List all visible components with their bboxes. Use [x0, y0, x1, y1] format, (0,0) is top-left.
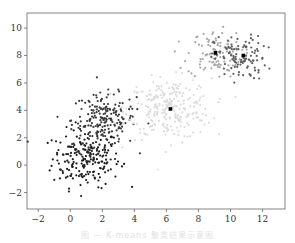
svg-text:2: 2	[99, 214, 105, 224]
figure-caption: 图 — K-means 聚类结果示意图	[0, 229, 295, 240]
svg-text:−2: −2	[9, 188, 22, 198]
svg-text:4: 4	[16, 105, 22, 115]
svg-text:−2: −2	[32, 214, 45, 224]
svg-text:2: 2	[16, 133, 22, 143]
svg-text:6: 6	[16, 78, 22, 88]
svg-text:8: 8	[196, 214, 202, 224]
svg-text:0: 0	[16, 160, 22, 170]
svg-text:8: 8	[16, 50, 22, 60]
data-points	[27, 26, 271, 197]
svg-text:12: 12	[257, 214, 268, 224]
svg-text:10: 10	[11, 23, 23, 33]
y-axis: −20246810	[9, 23, 27, 197]
svg-text:0: 0	[67, 214, 73, 224]
svg-text:4: 4	[131, 214, 137, 224]
x-axis: −2024681012	[32, 209, 269, 224]
scatter-plot: −2024681012 −20246810	[0, 0, 295, 243]
svg-text:6: 6	[164, 214, 170, 224]
svg-text:10: 10	[225, 214, 237, 224]
